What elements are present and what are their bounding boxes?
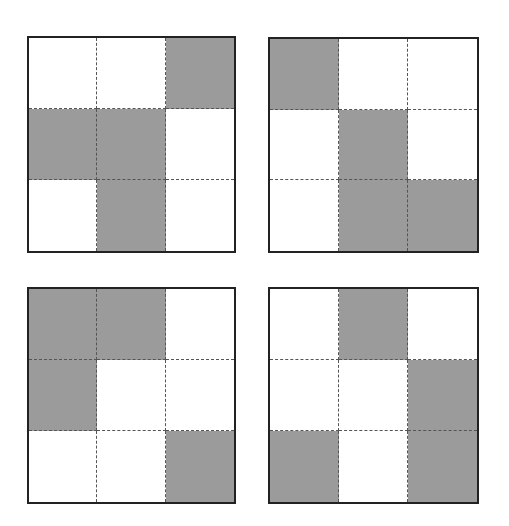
empty-cell-r0-c1 — [97, 38, 165, 109]
empty-cell-r1-c2 — [408, 110, 477, 181]
filled-cell-r1-c0 — [29, 109, 97, 180]
filled-cell-r0-c0 — [29, 289, 97, 360]
empty-cell-r0-c0 — [29, 38, 97, 109]
filled-cell-r0-c1 — [339, 289, 408, 360]
filled-cell-r2-c1 — [339, 180, 408, 251]
filled-cell-r1-c0 — [29, 360, 97, 431]
empty-cell-r1-c2 — [166, 360, 234, 431]
filled-cell-r1-c1 — [97, 109, 165, 180]
empty-cell-r1-c1 — [97, 360, 165, 431]
empty-cell-r0-c2 — [408, 289, 477, 360]
filled-cell-r2-c2 — [408, 431, 477, 502]
filled-cell-r1-c1 — [339, 110, 408, 181]
filled-cell-r2-c0 — [270, 431, 339, 502]
empty-cell-r1-c1 — [339, 360, 408, 431]
empty-cell-r2-c2 — [166, 180, 234, 251]
empty-cell-r1-c0 — [270, 110, 339, 181]
empty-cell-r0-c2 — [408, 39, 477, 110]
filled-cell-r2-c2 — [408, 180, 477, 251]
empty-cell-r0-c0 — [270, 289, 339, 360]
filled-cell-r0-c2 — [166, 38, 234, 109]
empty-cell-r0-c1 — [339, 39, 408, 110]
filled-cell-r0-c1 — [97, 289, 165, 360]
empty-cell-r2-c0 — [29, 431, 97, 502]
empty-cell-r0-c2 — [166, 289, 234, 360]
grid-bottom-left — [27, 287, 236, 504]
grid-top-left — [27, 36, 236, 253]
grid-top-right — [268, 37, 479, 253]
filled-cell-r2-c2 — [166, 431, 234, 502]
empty-cell-r1-c2 — [166, 109, 234, 180]
grid-bottom-right — [268, 287, 479, 504]
empty-cell-r1-c0 — [270, 360, 339, 431]
filled-cell-r0-c0 — [270, 39, 339, 110]
empty-cell-r2-c1 — [339, 431, 408, 502]
empty-cell-r2-c0 — [270, 180, 339, 251]
filled-cell-r2-c1 — [97, 180, 165, 251]
empty-cell-r2-c0 — [29, 180, 97, 251]
empty-cell-r2-c1 — [97, 431, 165, 502]
filled-cell-r1-c2 — [408, 360, 477, 431]
